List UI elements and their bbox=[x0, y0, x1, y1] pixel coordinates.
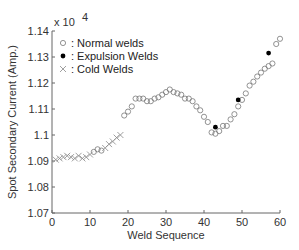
normal-weld-marker bbox=[217, 129, 222, 134]
normal-weld-marker bbox=[167, 87, 172, 92]
normal-weld-marker bbox=[160, 92, 165, 97]
cold-weld-marker bbox=[117, 132, 123, 138]
expulsion-weld-marker bbox=[236, 98, 241, 103]
normal-weld-marker bbox=[129, 104, 134, 109]
x-tick-label: 20 bbox=[122, 216, 134, 228]
y-tick-label: 1.12 bbox=[28, 77, 49, 89]
x-tick-label: 40 bbox=[198, 216, 210, 228]
axis-multiplier-exponent: 4 bbox=[82, 11, 88, 23]
x-tick-label: 0 bbox=[49, 216, 55, 228]
normal-weld-marker bbox=[266, 64, 271, 69]
series-cold-welds bbox=[53, 132, 124, 163]
y-tick-label: 1.14 bbox=[28, 25, 49, 37]
y-tick-label: 1.1 bbox=[34, 129, 49, 141]
normal-weld-marker bbox=[91, 149, 96, 154]
y-tick-label: 1.08 bbox=[28, 181, 49, 193]
normal-weld-marker bbox=[190, 99, 195, 104]
normal-weld-marker bbox=[236, 104, 241, 109]
cold-weld-marker bbox=[76, 153, 82, 159]
normal-weld-marker bbox=[251, 79, 256, 84]
normal-weld-marker bbox=[224, 123, 229, 128]
cold-weld-marker bbox=[87, 152, 93, 158]
scatter-chart: 01020304050601.071.081.091.11.111.121.13… bbox=[0, 0, 299, 250]
normal-weld-marker bbox=[60, 40, 65, 45]
normal-weld-marker bbox=[274, 41, 279, 46]
normal-weld-marker bbox=[205, 119, 210, 124]
normal-weld-marker bbox=[141, 96, 146, 101]
x-axis-label: Weld Sequence bbox=[127, 229, 204, 241]
normal-weld-marker bbox=[125, 109, 130, 114]
normal-weld-marker bbox=[201, 114, 206, 119]
legend-item-label: : Cold Welds bbox=[71, 63, 134, 75]
normal-weld-marker bbox=[243, 91, 248, 96]
x-tick-label: 50 bbox=[236, 216, 248, 228]
normal-weld-marker bbox=[186, 96, 191, 101]
normal-weld-marker bbox=[198, 108, 203, 113]
normal-weld-marker bbox=[163, 90, 168, 95]
cold-weld-marker bbox=[106, 141, 112, 147]
y-tick-label: 1.13 bbox=[28, 51, 49, 63]
normal-weld-marker bbox=[262, 66, 267, 71]
y-tick-label: 1.07 bbox=[28, 207, 49, 219]
legend-item-label: : Normal welds bbox=[71, 37, 144, 49]
expulsion-weld-marker bbox=[61, 54, 66, 59]
legend: : Normal welds: Expulsion Welds: Cold We… bbox=[60, 37, 159, 75]
cold-weld-marker bbox=[114, 135, 120, 141]
normal-weld-marker bbox=[277, 36, 282, 41]
y-axis-label: Spot Secondary Current (Amp.) bbox=[6, 45, 18, 199]
x-tick-label: 60 bbox=[274, 216, 286, 228]
y-tick-label: 1.11 bbox=[28, 103, 49, 115]
axis-multiplier: x 10 bbox=[54, 16, 75, 28]
x-tick-label: 30 bbox=[160, 216, 172, 228]
normal-weld-marker bbox=[228, 117, 233, 122]
x-tick-label: 10 bbox=[84, 216, 96, 228]
expulsion-weld-marker bbox=[266, 51, 271, 56]
normal-weld-marker bbox=[148, 99, 153, 104]
normal-weld-marker bbox=[232, 112, 237, 117]
y-tick-label: 1.09 bbox=[28, 155, 49, 167]
cold-weld-marker bbox=[60, 66, 66, 72]
normal-weld-marker bbox=[270, 61, 275, 66]
legend-item-label: : Expulsion Welds bbox=[71, 50, 159, 62]
expulsion-weld-marker bbox=[213, 125, 218, 130]
series-expulsion-welds bbox=[213, 51, 271, 130]
